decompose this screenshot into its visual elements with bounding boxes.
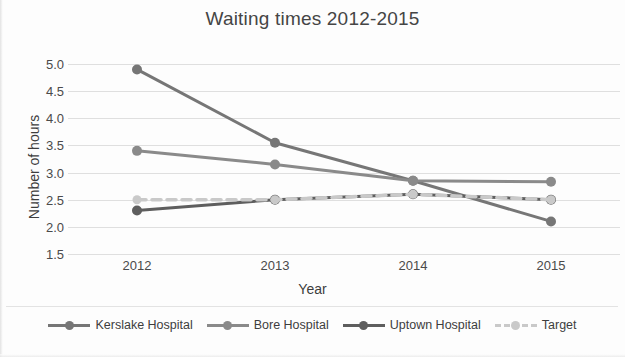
series-kerslake-hospital — [132, 64, 556, 226]
series-line — [137, 151, 551, 182]
legend-label: Bore Hospital — [254, 318, 329, 332]
data-point — [132, 64, 142, 74]
legend-label: Uptown Hospital — [390, 318, 481, 332]
y-tick-label: 3.5 — [46, 138, 64, 153]
legend-separator — [6, 306, 618, 307]
y-tick-label: 4.0 — [46, 111, 64, 126]
gridline — [68, 254, 620, 255]
data-point — [270, 138, 280, 148]
data-point — [270, 159, 280, 169]
data-point — [409, 190, 418, 199]
data-point — [271, 195, 280, 204]
legend-swatch-icon — [343, 319, 385, 331]
legend-label: Target — [542, 318, 577, 332]
data-point — [408, 176, 418, 186]
y-tick-label: 5.0 — [46, 57, 64, 72]
data-point — [546, 177, 556, 187]
plot-area — [68, 64, 620, 254]
legend-item-target[interactable]: Target — [495, 318, 577, 332]
y-tick-label: 2.0 — [46, 219, 64, 234]
data-point — [546, 216, 556, 226]
x-tick-label: 2013 — [261, 258, 290, 273]
x-tick-label: 2012 — [123, 258, 152, 273]
series-lines — [68, 64, 620, 254]
y-tick-label: 2.5 — [46, 192, 64, 207]
y-tick-label: 3.0 — [46, 165, 64, 180]
data-point — [547, 195, 556, 204]
x-axis-title: Year — [0, 281, 625, 297]
legend-item-uptown-hospital[interactable]: Uptown Hospital — [343, 318, 481, 332]
legend-swatch-icon — [495, 319, 537, 331]
y-tick-label: 4.5 — [46, 84, 64, 99]
data-point — [132, 146, 142, 156]
legend-item-kerslake-hospital[interactable]: Kerslake Hospital — [48, 318, 192, 332]
data-point — [132, 206, 142, 216]
x-tick-label: 2015 — [537, 258, 566, 273]
series-uptown-hospital — [132, 189, 556, 215]
x-tick-label: 2014 — [399, 258, 428, 273]
chart-legend: Kerslake HospitalBore HospitalUptown Hos… — [0, 318, 625, 332]
legend-swatch-icon — [48, 319, 90, 331]
y-axis-tick-labels: 5.04.54.03.53.02.52.01.5 — [30, 64, 64, 254]
data-point — [133, 195, 142, 204]
chart-title: Waiting times 2012-2015 — [0, 8, 625, 30]
y-tick-label: 1.5 — [46, 247, 64, 262]
legend-swatch-icon — [207, 319, 249, 331]
legend-item-bore-hospital[interactable]: Bore Hospital — [207, 318, 329, 332]
series-bore-hospital — [132, 146, 556, 187]
legend-label: Kerslake Hospital — [95, 318, 192, 332]
x-axis-tick-labels: 2012201320142015 — [68, 258, 620, 278]
scan-edge-left — [0, 0, 3, 357]
chart-container: Waiting times 2012-2015 Number of hours … — [0, 0, 625, 357]
